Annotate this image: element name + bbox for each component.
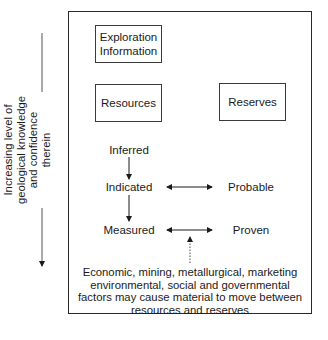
connector-layer: [0, 0, 328, 340]
